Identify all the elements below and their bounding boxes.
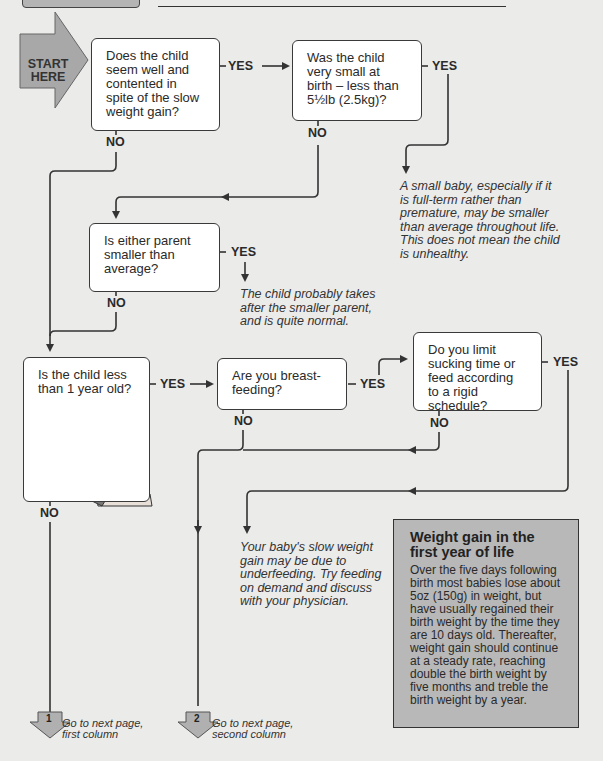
q2-yes-label: YES (432, 59, 457, 73)
info-box-title: Weight gain in the first year of life (410, 530, 564, 560)
q5-no-label: NO (234, 414, 253, 428)
q6-no-label: NO (430, 416, 449, 430)
goto-1-number: 1 (46, 713, 52, 724)
note-smaller-parent: The child probably takes after the small… (240, 288, 380, 329)
question-parent-smaller: Is either parent smaller than average? (89, 223, 220, 292)
goto-1-text: Go to next page, first column (62, 718, 143, 740)
info-box-body: Over the five days following birth most … (410, 564, 564, 707)
q2-no-label: NO (308, 126, 327, 140)
q4-yes-label: YES (160, 377, 185, 391)
q4-no-label: NO (40, 506, 59, 520)
question-under-one-year: Is the child less than 1 year old? (23, 357, 150, 502)
start-label-line2: HERE (22, 71, 74, 84)
start-here-label: START HERE (22, 58, 74, 84)
question-limit-sucking: Do you limit sucking time or feed accord… (413, 332, 542, 411)
question-small-at-birth: Was the child very small at birth – less… (292, 40, 422, 121)
question-child-contented: Does the child seem well and contented i… (91, 38, 220, 131)
q1-no-label: NO (106, 135, 125, 149)
q1-yes-label: YES (228, 59, 253, 73)
q3-yes-label: YES (231, 245, 256, 259)
question-breastfeeding: Are you breast-feeding? (217, 358, 347, 410)
q3-no-label: NO (107, 296, 126, 310)
q5-yes-label: YES (360, 377, 385, 391)
note-small-baby: A small baby, especially if it is full-t… (400, 180, 560, 261)
note-underfeeding: Your baby's slow weight gain may be due … (240, 541, 385, 609)
info-box-weight-gain: Weight gain in the first year of life Ov… (393, 519, 579, 728)
goto-2-text: Go to next page, second column (212, 718, 293, 740)
goto-2-line2: second column (212, 729, 293, 740)
q6-yes-label: YES (553, 355, 578, 369)
goto-2-number: 2 (194, 713, 200, 724)
goto-1-line2: first column (62, 729, 143, 740)
